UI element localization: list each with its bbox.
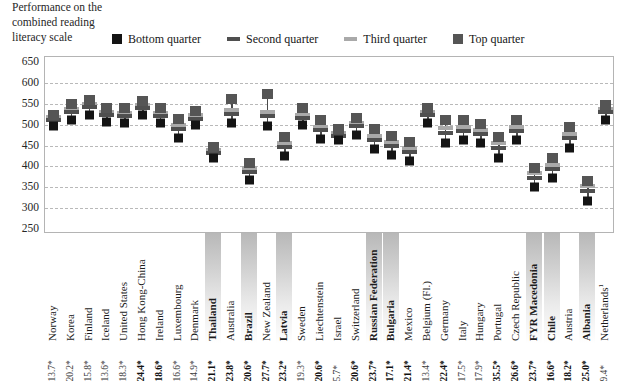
x-axis-label: Germany	[438, 300, 449, 341]
marker-top-quarter	[564, 122, 575, 132]
marker-second-quarter	[562, 136, 577, 140]
x-axis-label: Israel	[331, 317, 342, 341]
percentage-value: 15.8*	[84, 360, 94, 381]
marker-bottom-quarter	[138, 110, 147, 119]
x-label-column: Bulgaria	[382, 233, 400, 343]
percentage-value: 20.6*	[315, 360, 325, 381]
percentage-column: 13.6*	[97, 345, 115, 381]
marker-bottom-quarter	[512, 136, 521, 145]
x-axis-label: Finland	[82, 307, 93, 341]
x-axis-label: Korea	[64, 314, 75, 341]
marker-top-quarter	[529, 163, 540, 173]
marker-bottom-quarter	[565, 143, 574, 152]
percentage-column: 17.5*	[454, 345, 472, 381]
marker-second-quarter	[367, 138, 382, 142]
x-label-column: Netherlands1	[596, 233, 614, 343]
x-label-column: Australia	[222, 233, 240, 343]
data-column	[330, 57, 348, 232]
x-label-column: Hong Kong-China	[133, 233, 151, 343]
marker-top-quarter	[137, 96, 148, 106]
legend-swatch-square-icon	[112, 34, 122, 44]
marker-bottom-quarter	[316, 135, 325, 144]
marker-bottom-quarter	[601, 115, 610, 124]
marker-second-quarter	[580, 189, 595, 193]
percentage-column: 9.4*	[596, 345, 614, 381]
legend-label: Second quarter	[246, 32, 318, 47]
x-label-column: Sweden	[293, 233, 311, 343]
x-label-column: Hungary	[471, 233, 489, 343]
data-column	[437, 57, 455, 232]
y-tick-label: 300	[22, 201, 39, 213]
percentage-value: 17.9*	[475, 360, 485, 381]
percentage-column: 20.6*	[347, 345, 365, 381]
marker-top-quarter	[333, 124, 344, 134]
marker-bottom-quarter	[459, 136, 468, 145]
x-axis-label: Chile	[545, 316, 556, 341]
x-axis-label: Netherlands1	[598, 284, 610, 341]
percentage-column: 21.4*	[400, 345, 418, 381]
marker-bottom-quarter	[423, 118, 432, 127]
marker-top-quarter	[119, 103, 130, 113]
marker-bottom-quarter	[263, 122, 272, 131]
x-axis-label: Brazil	[242, 312, 253, 341]
percentage-column: 15.8*	[80, 345, 98, 381]
data-column	[294, 57, 312, 232]
x-label-column: Denmark	[186, 233, 204, 343]
marker-second-quarter	[99, 113, 114, 117]
x-label-column: Latvia	[275, 233, 293, 343]
y-axis-ticks: 650600550500450400350300250	[0, 52, 44, 236]
data-column	[187, 57, 205, 232]
marker-top-quarter	[351, 113, 362, 123]
x-axis-label: United States	[118, 282, 129, 341]
percentage-value: 17.1*	[386, 360, 396, 381]
marker-second-quarter	[349, 124, 364, 128]
marker-bottom-quarter	[245, 175, 254, 184]
legend-label: Top quarter	[469, 32, 524, 47]
percentage-value: 13.7*	[48, 360, 58, 381]
marker-top-quarter	[547, 153, 558, 163]
marker-bottom-quarter	[174, 133, 183, 142]
percentage-value: 35.5*	[493, 360, 503, 381]
marker-second-quarter	[527, 176, 542, 180]
data-column	[134, 57, 152, 232]
x-axis-label: Liechtenstein	[314, 282, 325, 341]
percentage-column: 13.4*	[418, 345, 436, 381]
marker-second-quarter	[313, 128, 328, 132]
percentage-column: 18.2*	[560, 345, 578, 381]
x-label-column: Ireland	[151, 233, 169, 343]
marker-top-quarter	[226, 94, 237, 104]
percentage-column: 20.2*	[62, 345, 80, 381]
marker-top-quarter	[600, 100, 611, 110]
marker-second-quarter	[491, 146, 506, 150]
percentage-column: 13.7*	[44, 345, 62, 381]
marker-top-quarter	[440, 115, 451, 125]
data-column	[508, 57, 526, 232]
legend-item-third-quarter: Third quarter	[344, 32, 427, 47]
legend-swatch-dash-icon	[344, 37, 357, 41]
percentage-value: 18.2*	[564, 360, 574, 381]
percentage-column: 24.4*	[133, 345, 151, 381]
percentage-column: 19.3*	[293, 345, 311, 381]
marker-top-quarter	[48, 110, 59, 120]
marker-second-quarter	[384, 144, 399, 148]
percentage-column: 14.9*	[186, 345, 204, 381]
percentage-column: 23.7*	[365, 345, 383, 381]
marker-second-quarter	[295, 116, 310, 120]
percentage-value: 23.8*	[226, 360, 236, 381]
x-label-column: Belgium (Fl.)	[418, 233, 436, 343]
data-column	[544, 57, 562, 232]
percentage-column: 18.3*	[115, 345, 133, 381]
y-tick-label: 500	[22, 118, 39, 130]
data-column	[223, 57, 241, 232]
x-label-column: Russian Federation	[365, 233, 383, 343]
marker-second-quarter	[545, 167, 560, 171]
percentage-value: 21.4*	[404, 360, 414, 381]
x-axis-label: Portugal	[492, 304, 503, 341]
percentage-value: 5.7*	[333, 364, 343, 381]
x-axis-label: Hong Kong-China	[136, 259, 147, 341]
y-tick-label: 600	[22, 76, 39, 88]
percentage-value: 24.4*	[137, 360, 147, 381]
marker-bottom-quarter	[156, 119, 165, 128]
plot-area	[44, 56, 614, 233]
y-tick-label: 250	[22, 222, 39, 234]
